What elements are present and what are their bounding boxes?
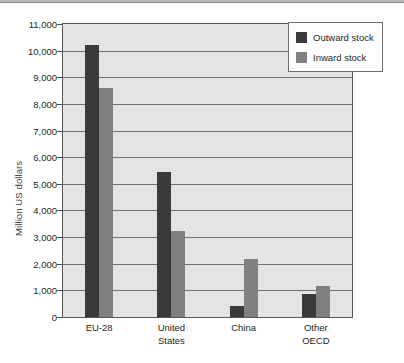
x-axis-tick-label-line: States (126, 335, 216, 348)
y-axis-tick-label: 1,000 (5, 285, 57, 296)
y-axis-tick-label: 6,000 (5, 152, 57, 163)
bar-outward-other-oecd (302, 294, 316, 317)
y-axis-tick-label: 8,000 (5, 98, 57, 109)
y-axis-tick-label: 0 (5, 312, 57, 323)
bar-outward-united-states (157, 172, 171, 317)
bar-inward-eu-28 (99, 88, 113, 317)
legend-swatch-inward-stock (296, 52, 307, 63)
legend-item-inward-stock: Inward stock (296, 49, 374, 65)
bar-inward-other-oecd (316, 286, 330, 317)
chart-legend: Outward stock Inward stock (288, 22, 383, 72)
y-axis-tick-label: 2,000 (5, 258, 57, 269)
y-axis-tick-label: 3,000 (5, 232, 57, 243)
y-axis-tick-label: 9,000 (5, 72, 57, 83)
bar-inward-united-states (171, 231, 185, 317)
y-axis-tick-label: 4,000 (5, 205, 57, 216)
y-axis-tick-label: 5,000 (5, 178, 57, 189)
y-axis-tick-label: 10,000 (5, 45, 57, 56)
x-axis-tick-label: OtherOECD (271, 322, 361, 347)
bar-outward-eu-28 (85, 45, 99, 317)
bar-chart-figure: Million US dollars 11,00010,0009,0008,00… (0, 0, 404, 363)
legend-swatch-outward-stock (296, 32, 307, 43)
legend-item-outward-stock: Outward stock (296, 29, 374, 45)
y-axis-tick-label: 11,000 (5, 19, 57, 30)
bar-outward-china (230, 306, 244, 317)
x-axis-tick-label-line: Other (271, 322, 361, 335)
bar-inward-china (244, 259, 258, 317)
x-axis-tick-label-line: OECD (271, 335, 361, 348)
legend-label-outward-stock: Outward stock (313, 32, 374, 43)
y-axis-tick-label: 7,000 (5, 125, 57, 136)
y-axis-title-text: Million US dollars (13, 161, 24, 236)
legend-label-inward-stock: Inward stock (313, 52, 366, 63)
